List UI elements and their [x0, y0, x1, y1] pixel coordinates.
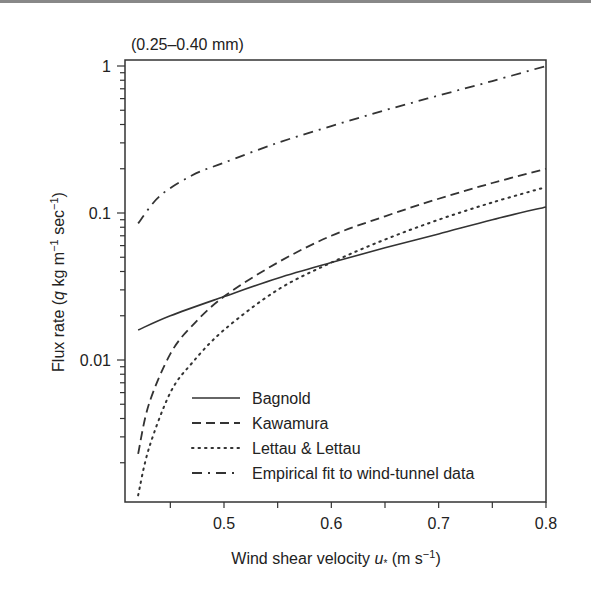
flux-rate-chart: (0.25–0.40 mm) 0.010.11 0.50.60.70.8 Bag…: [0, 0, 591, 594]
series-line-dashdot: [138, 66, 546, 223]
x-axis: 0.50.60.70.8: [170, 502, 557, 532]
y-tick-label: 0.01: [80, 352, 111, 369]
chart-title: (0.25–0.40 mm): [131, 36, 244, 53]
legend-label: Empirical fit to wind-tunnel data: [252, 465, 474, 482]
x-tick-label: 0.8: [535, 515, 557, 532]
y-tick-label: 0.1: [89, 205, 111, 222]
x-tick-label: 0.5: [213, 515, 235, 532]
series-line-solid: [138, 207, 546, 330]
legend-label: Lettau & Lettau: [252, 440, 361, 457]
legend-label: Kawamura: [252, 415, 329, 432]
x-tick-label: 0.7: [428, 515, 450, 532]
y-axis-label: Flux rate (q kg m−1 sec−1): [48, 192, 67, 372]
legend: BagnoldKawamuraLettau & LettauEmpirical …: [192, 390, 474, 482]
x-tick-label: 0.6: [320, 515, 342, 532]
x-axis-label: Wind shear velocity u* (m s−1): [231, 548, 440, 569]
legend-label: Bagnold: [252, 390, 311, 407]
y-tick-label: 1: [102, 58, 111, 75]
series-line-dashed: [138, 169, 546, 454]
y-axis: 0.010.11: [80, 58, 125, 463]
series-group: [138, 66, 546, 495]
plot-frame: [125, 60, 546, 502]
